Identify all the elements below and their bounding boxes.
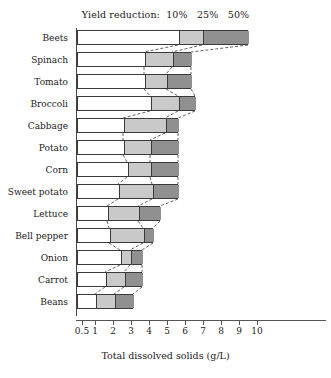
bar-row <box>77 162 178 177</box>
bar-segment-50pct <box>167 75 192 88</box>
bar-segment-10pct <box>78 229 110 242</box>
x-axis-tick <box>221 320 222 325</box>
y-axis-label: Spinach <box>31 56 68 65</box>
bar-segment-50pct <box>144 229 154 242</box>
legend-item-25: 25% <box>191 9 219 20</box>
x-axis-tick-label: 5 <box>164 327 170 336</box>
bar-segment-25pct <box>124 141 151 154</box>
x-axis-tick-label: 6 <box>182 327 188 336</box>
x-axis-tick <box>113 320 114 325</box>
legend-item-10: 10% <box>163 9 188 20</box>
x-axis-tick <box>185 320 186 325</box>
legend-label-25: 25% <box>197 9 218 20</box>
y-axis-label: Beans <box>40 298 68 307</box>
bar-segment-25pct <box>106 273 125 286</box>
bar-segment-25pct <box>96 295 115 308</box>
y-axis-label: Sweet potato <box>8 188 68 197</box>
bar-row <box>77 184 178 199</box>
bar-segment-10pct <box>78 251 121 264</box>
bar-row <box>77 96 195 111</box>
bar-segment-25pct <box>119 185 153 198</box>
x-axis-tick-label: 3 <box>128 327 134 336</box>
x-axis-tick-label: 10 <box>251 327 262 336</box>
bar-segment-25pct <box>124 119 166 132</box>
bar-segment-25pct <box>128 163 151 176</box>
x-axis-tick <box>82 320 83 325</box>
bar-row <box>77 52 191 67</box>
bar-segment-50pct <box>151 141 179 154</box>
bar-row <box>77 74 191 89</box>
legend-label-10: 10% <box>166 9 187 20</box>
bar-segment-10pct <box>78 31 179 44</box>
bar-row <box>77 272 142 287</box>
bar-segment-25pct <box>145 75 167 88</box>
bar-segment-25pct <box>179 31 203 44</box>
bar-segment-50pct <box>203 31 249 44</box>
bar-row <box>77 228 153 243</box>
bar-segment-10pct <box>78 295 96 308</box>
bar-row <box>77 206 160 221</box>
bar-segment-10pct <box>78 119 124 132</box>
salinity-yield-reduction-chart: Yield reduction: 10% 25% 50% BeetsSpinac… <box>0 0 331 378</box>
bar-segment-25pct <box>151 97 179 110</box>
bar-row <box>77 294 133 309</box>
bar-row <box>77 118 178 133</box>
legend-item-50: 50% <box>222 9 250 20</box>
x-axis-tick <box>131 320 132 325</box>
y-axis-label: Tomato <box>34 78 68 87</box>
x-axis-tick-label: 0.5 <box>75 327 89 336</box>
bar-segment-10pct <box>78 273 106 286</box>
x-axis-tick-label: 8 <box>218 327 224 336</box>
y-axis-label: Cabbage <box>28 122 68 131</box>
y-axis-label: Lettuce <box>33 210 68 219</box>
x-axis-tick-label: 7 <box>200 327 206 336</box>
x-axis-tick <box>95 320 96 325</box>
x-axis-tick <box>149 320 150 325</box>
bar-segment-50pct <box>125 273 143 286</box>
x-axis-tick-label: 1 <box>92 327 98 336</box>
y-axis-label: Carrot <box>38 276 68 285</box>
y-axis-label: Beets <box>42 34 68 43</box>
bar-segment-50pct <box>115 295 134 308</box>
y-axis-label: Potato <box>39 144 68 153</box>
bar-segment-10pct <box>78 141 124 154</box>
bar-segment-50pct <box>151 163 179 176</box>
y-axis-label: Bell pepper <box>15 232 68 241</box>
y-axis-label: Onion <box>41 254 68 263</box>
x-axis-tick-label: 9 <box>236 327 242 336</box>
bar-segment-25pct <box>121 251 131 264</box>
legend-prefix: Yield reduction: <box>82 9 160 20</box>
y-axis-category-labels: BeetsSpinachTomatoBroccoliCabbagePotatoC… <box>0 28 72 316</box>
bar-segment-10pct <box>78 97 151 110</box>
x-axis-tick <box>203 320 204 325</box>
bar-row <box>77 30 248 45</box>
bar-segment-50pct <box>131 251 143 264</box>
bar-segment-50pct <box>139 207 161 220</box>
x-axis-tick <box>167 320 168 325</box>
chart-legend: Yield reduction: 10% 25% 50% <box>0 9 331 20</box>
y-axis-label: Corn <box>46 166 68 175</box>
bar-segment-25pct <box>108 207 139 220</box>
bar-segment-50pct <box>153 185 179 198</box>
bar-row <box>77 250 142 265</box>
x-axis-tick-label: 4 <box>146 327 152 336</box>
y-axis-label: Broccoli <box>30 100 68 109</box>
bar-segment-10pct <box>78 163 128 176</box>
x-axis-tick <box>239 320 240 325</box>
bar-segment-10pct <box>78 185 119 198</box>
bar-segment-10pct <box>78 53 145 66</box>
legend-label-50: 50% <box>228 9 249 20</box>
bar-segment-25pct <box>145 53 173 66</box>
bar-row <box>77 140 178 155</box>
x-axis-tick-label: 2 <box>110 327 116 336</box>
bar-segment-10pct <box>78 207 108 220</box>
bar-segment-50pct <box>166 119 179 132</box>
x-axis-title: Total dissolved solids (g/L) <box>0 350 331 361</box>
bar-segment-25pct <box>110 229 144 242</box>
bar-segment-50pct <box>179 97 196 110</box>
bar-segment-50pct <box>173 53 192 66</box>
bar-segment-10pct <box>78 75 145 88</box>
x-axis-tick <box>257 320 258 325</box>
